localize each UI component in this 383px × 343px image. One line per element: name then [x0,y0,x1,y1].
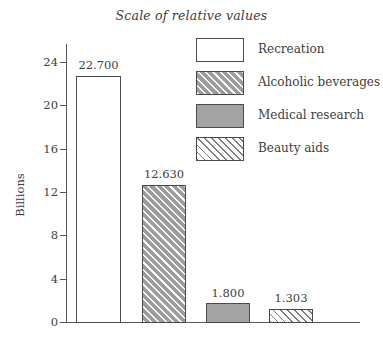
y-tick-mark-8 [60,235,67,236]
y-tick-mark-0 [60,322,67,323]
bar-value-alcoholic-beverages: 12.630 [132,167,196,181]
chart-title: Scale of relative values [0,8,383,23]
legend-label-recreation: Recreation [258,42,324,56]
y-tick-label-0: 0 [18,315,58,329]
legend-swatch-recreation [196,38,244,62]
y-tick-label-12: 12 [18,185,58,199]
y-tick-mark-16 [60,149,67,150]
y-tick-label-24: 24 [18,55,58,69]
y-tick-mark-20 [60,105,67,106]
legend-label-medical-research: Medical research [258,108,364,122]
legend-swatch-alcoholic-beverages [196,71,244,95]
y-tick-label-4: 4 [18,272,58,286]
bar-beauty-aids[interactable] [269,309,313,323]
y-axis-line [66,44,67,323]
y-tick-label-8: 8 [18,228,58,242]
legend-label-alcoholic-beverages: Alcoholic beverages [258,75,380,89]
bar-medical-research[interactable] [206,303,250,323]
y-tick-label-20: 20 [18,98,58,112]
chart-container: Scale of relative values Billions 0 4 8 … [0,0,383,343]
legend-label-beauty-aids: Beauty aids [258,141,329,155]
legend-swatch-beauty-aids [196,137,244,161]
y-tick-mark-4 [60,279,67,280]
y-tick-label-16: 16 [18,142,58,156]
y-tick-mark-12 [60,192,67,193]
bar-value-recreation: 22.700 [66,58,131,72]
bar-value-medical-research: 1.800 [196,286,260,300]
bar-recreation[interactable] [76,76,121,323]
legend-swatch-medical-research [196,104,244,128]
bar-value-beauty-aids: 1.303 [259,291,323,305]
bar-alcoholic-beverages[interactable] [142,185,186,324]
